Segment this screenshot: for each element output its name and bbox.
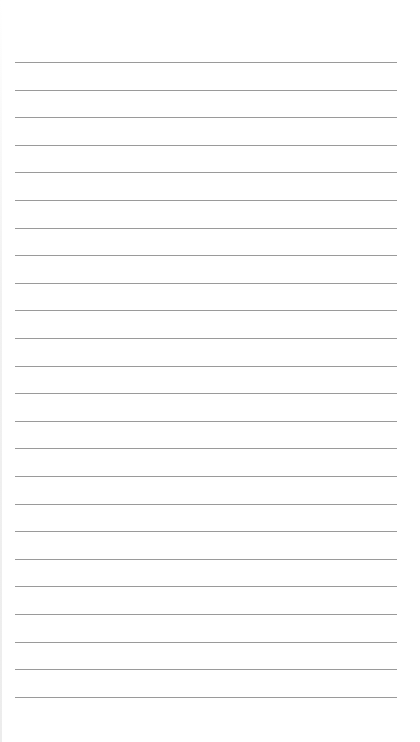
ruled-line [15,172,397,173]
ruled-line [15,559,397,560]
ruled-line [15,283,397,284]
ruled-line [15,421,397,422]
ruled-line [15,614,397,615]
ruled-line [15,393,397,394]
ruled-line [15,586,397,587]
ruled-line [15,504,397,505]
ruled-line [15,255,397,256]
ruled-line [15,62,397,63]
ruled-line [15,145,397,146]
ruled-line [15,117,397,118]
ruled-line [15,669,397,670]
ruled-line [15,642,397,643]
ruled-line [15,200,397,201]
ruled-line [15,476,397,477]
ruled-line [15,310,397,311]
ruled-line [15,531,397,532]
ruled-line [15,228,397,229]
ruled-line [15,338,397,339]
ruled-line [15,90,397,91]
ruled-line [15,697,397,698]
page-edge [0,0,2,742]
ruled-line [15,366,397,367]
ruled-line [15,448,397,449]
